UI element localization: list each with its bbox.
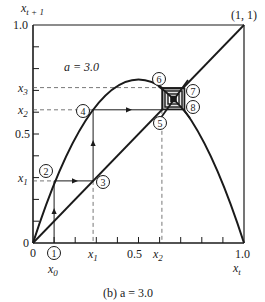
svg-text:2: 2 — [44, 166, 49, 177]
figure-caption: (b) a = 3.0 — [103, 286, 153, 300]
x-tick-x2: x2 — [152, 247, 163, 263]
step-marker-5: 5 — [154, 117, 167, 130]
svg-text:6: 6 — [157, 74, 162, 85]
svg-text:8: 8 — [191, 102, 196, 113]
step-marker-8: 8 — [187, 101, 200, 114]
step-marker-3: 3 — [97, 176, 110, 189]
y-tick-x1: x1 — [17, 171, 28, 187]
x-axis-title: xt — [232, 261, 241, 277]
parameter-label: a = 3.0 — [64, 60, 99, 74]
arrow-right-icon — [72, 178, 78, 183]
logistic-curve — [33, 80, 244, 244]
x-tick-0: 0 — [30, 246, 36, 260]
y-tick-0.5: 0.5 — [15, 127, 30, 141]
x-tick-0.5: 0.5 — [127, 247, 142, 261]
arrow-right-icon — [126, 107, 132, 112]
cobweb-diagram: 1 2 3 4 5 6 7 8 xt + 1 1.0 x3 x2 0.5 x1 … — [0, 0, 265, 302]
y-axis-ticks — [33, 47, 39, 221]
y-axis-title: xt + 1 — [20, 1, 44, 17]
step-marker-7: 7 — [187, 85, 200, 98]
step-marker-6: 6 — [153, 73, 166, 86]
svg-text:3: 3 — [101, 177, 106, 188]
svg-text:4: 4 — [81, 106, 86, 117]
arrow-up-icon — [52, 208, 57, 214]
x-tick-1.0: 1.0 — [235, 247, 250, 261]
x-axis-ticks — [54, 237, 223, 243]
y-tick-x2: x2 — [17, 103, 28, 119]
x-axis-labels: 0 x0 x1 0.5 x2 1.0 xt — [30, 246, 250, 278]
arrow-up-icon — [91, 140, 96, 146]
y-tick-x3: x3 — [17, 81, 28, 97]
step-marker-1: 1 — [48, 247, 61, 260]
step-marker-4: 4 — [77, 105, 90, 118]
y-tick-1.0: 1.0 — [13, 18, 28, 32]
dashed-guides — [33, 88, 162, 243]
step-marker-2: 2 — [40, 165, 53, 178]
y-tick-0: 0 — [23, 236, 29, 250]
corner-label: (1, 1) — [231, 8, 257, 22]
x-tick-x0: x0 — [47, 262, 58, 278]
y-axis-labels: xt + 1 1.0 x3 x2 0.5 x1 0 — [13, 1, 44, 250]
svg-text:5: 5 — [158, 118, 163, 129]
svg-text:7: 7 — [191, 86, 196, 97]
svg-text:1: 1 — [52, 248, 57, 259]
x-tick-x1: x1 — [87, 247, 98, 263]
identity-line — [33, 25, 244, 243]
